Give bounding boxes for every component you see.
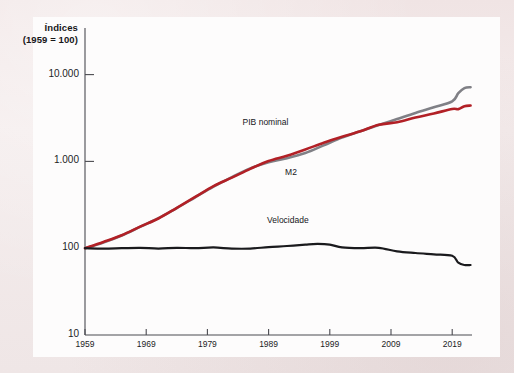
chart-svg <box>0 0 514 373</box>
y-tick-label: 10.000 <box>10 68 79 79</box>
y-axis-ticks <box>85 75 94 249</box>
x-tick-label: 1969 <box>122 339 170 349</box>
data-series-group <box>85 87 471 265</box>
axis-lines <box>85 28 472 335</box>
y-tick-label: 10 <box>10 328 79 339</box>
x-tick-label: 2009 <box>367 339 415 349</box>
y-tick-label: 1.000 <box>10 154 79 165</box>
series-line-velocidade <box>85 244 471 265</box>
x-tick-label: 1959 <box>61 339 109 349</box>
y-tick-label: 100 <box>10 241 79 252</box>
x-axis-ticks <box>85 329 452 335</box>
series-label-pib-nominal: PIB nominal <box>243 117 289 127</box>
x-tick-label: 1979 <box>183 339 231 349</box>
series-label-m2: M2 <box>285 167 297 177</box>
y-axis-title-line1: Índices <box>34 22 78 33</box>
series-label-velocidade: Velocidade <box>267 215 309 225</box>
x-tick-label: 2019 <box>428 339 476 349</box>
figure-root: Índices (1959 = 100) 101001.00010.000 19… <box>0 0 514 373</box>
x-tick-label: 1989 <box>245 339 293 349</box>
x-tick-label: 1999 <box>306 339 354 349</box>
y-axis-title-line2: (1959 = 100) <box>14 34 78 45</box>
